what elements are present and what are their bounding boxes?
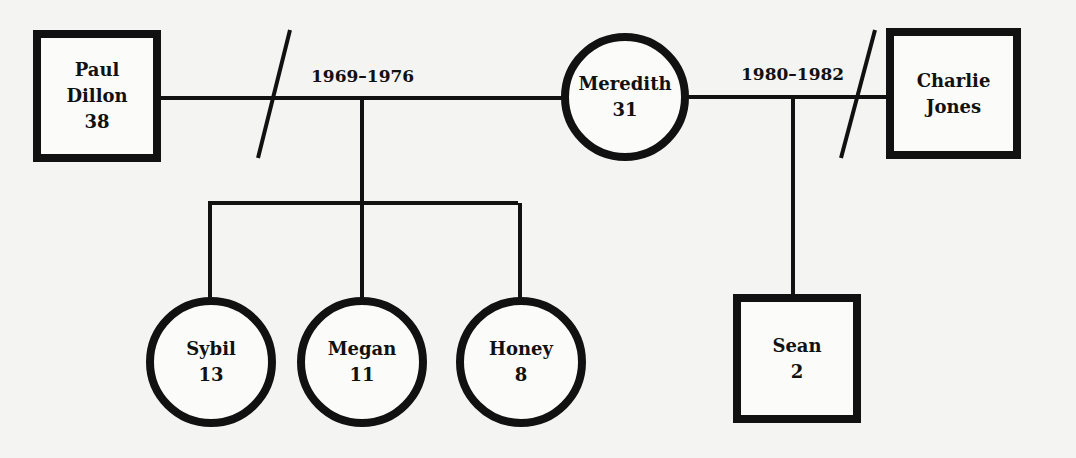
person-age: 38: [84, 109, 109, 135]
person-name: Charlie: [917, 68, 991, 94]
person-name: Honey: [489, 336, 553, 362]
person-age: 31: [612, 97, 637, 123]
person-age: 8: [515, 362, 528, 388]
person-name: Jones: [926, 94, 981, 120]
person-sybil: Sybil 13: [146, 297, 276, 427]
person-name: Dillon: [66, 83, 127, 109]
person-paul-dillon: Paul Dillon 38: [33, 30, 161, 162]
marriage-years-paul-meredith: 1969–1976: [311, 66, 414, 86]
divorce-slash-meredith-charlie: [841, 30, 875, 158]
person-age: 11: [349, 362, 374, 388]
person-name: Sean: [772, 333, 821, 359]
person-meredith: Meredith 31: [561, 33, 689, 161]
person-megan: Megan 11: [297, 297, 427, 427]
person-sean: Sean 2: [733, 294, 861, 423]
person-name: Megan: [328, 336, 397, 362]
person-honey: Honey 8: [456, 297, 586, 427]
person-age: 13: [198, 362, 223, 388]
divorce-slash-paul-meredith: [258, 30, 290, 158]
person-name: Paul: [75, 57, 120, 83]
person-name: Sybil: [186, 336, 236, 362]
person-charlie-jones: Charlie Jones: [886, 28, 1021, 159]
marriage-years-meredith-charlie: 1980–1982: [741, 64, 844, 84]
person-name: Meredith: [578, 71, 671, 97]
person-age: 2: [791, 359, 804, 385]
